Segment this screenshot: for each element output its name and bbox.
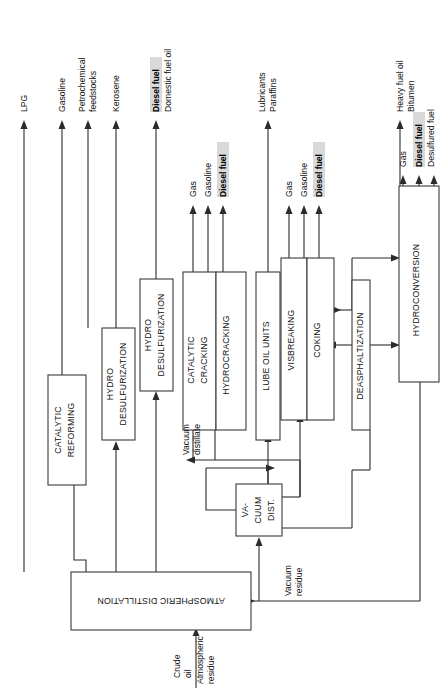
unit-catalytic-cracking[interactable]: CATALYTIC CRACKING [183,272,216,430]
product-label-cracking-gas: Gas [188,181,198,197]
diagram-canvas: ATMOSPHERIC DISTILLATION CATALYTIC REFOR… [0,0,447,692]
product-label-cracking-gasoline: Gasoline [203,163,213,197]
unit-hydro-desulfurization-2[interactable]: HYDRO DESULFURIZATION [140,279,173,391]
stream-label-atmospheric-residue-2: residue [206,656,216,684]
unit-label-coking: COKING [312,322,322,357]
unit-label-vacuum-distillation-3: DIST. [266,499,276,521]
unit-label-catalytic-reforming-1: CATALYTIC [53,406,63,453]
unit-label-catalytic-cracking-1: CATALYTIC [186,336,196,383]
unit-deasphaltization[interactable]: DEASPHALTIZATION [352,280,370,430]
unit-label-hydro-desulfurization-1a: HYDRO [105,368,115,400]
product-label-lpg: LPG [19,94,29,112]
product-label-hydroconversion-gas: Gas [398,151,408,167]
unit-label-hydro-desulfurization-1b: DESULFURIZATION [118,342,128,425]
unit-vacuum-distillation[interactable]: VA- CUUM DIST. [236,484,282,536]
unit-label-atmospheric-distillation: ATMOSPHERIC DISTILLATION [97,596,224,606]
product-label-bitumen: Bitumen [406,80,416,112]
product-label-kerosene: Kerosene [111,75,121,112]
unit-label-visbreaking: VISBREAKING [286,310,296,371]
product-label-gasoline: Gasoline [57,78,67,112]
unit-label-catalytic-reforming-2: REFORMING [66,403,76,458]
product-label-diesel-fuel-1: Diesel fuel [151,69,161,112]
stream-labels: Vacuum distillate Vacuum residue Atmosph… [172,424,304,684]
unit-label-hydroconversion: HYDROCONVERSION [411,244,421,336]
stream-label-vacuum-distillate-2: distillate [192,424,202,455]
product-label-domestic-fuel-oil: Domestic fuel oil [163,49,173,112]
product-label-hydroconversion-diesel-fuel: Diesel fuel [414,124,424,167]
unit-label-catalytic-cracking-2: CRACKING [199,336,209,383]
unit-label-hydrocracking: HYDROCRACKING [221,315,231,395]
product-label-petrochemical-feedstocks-1: Petrochemical [77,57,87,112]
process-flow-diagram: ATMOSPHERIC DISTILLATION CATALYTIC REFOR… [0,0,447,692]
feed-label-crude-1: Crude [172,654,182,678]
feed-label-crude-2: oil [183,669,193,678]
unit-hydro-desulfurization-1[interactable]: HYDRO DESULFURIZATION [102,328,135,440]
unit-lube-oil-units[interactable]: LUBE OIL UNITS [256,272,280,440]
unit-coking[interactable]: COKING [307,258,334,420]
stream-label-vacuum-residue-1: Vacuum [283,565,293,596]
unit-label-hydro-desulfurization-2b: DESULFURIZATION [156,293,166,376]
product-label-paraffins: Paraffins [268,78,278,112]
unit-label-vacuum-distillation-1: VA- [240,503,250,517]
unit-label-vacuum-distillation-2: CUUM [253,497,263,524]
product-label-desulfured-fuel: Desulfured fuel [426,109,436,167]
unit-hydrocracking[interactable]: HYDROCRACKING [216,272,246,430]
stream-label-vacuum-residue-2: residue [294,568,304,596]
product-label-lubricants: Lubricants [257,72,267,112]
product-label-visbreaking-gas: Gas [284,181,294,197]
stream-label-atmospheric-residue-1: Atmospheric [195,636,205,684]
unit-catalytic-reforming[interactable]: CATALYTIC REFORMING [48,375,86,485]
unit-hydroconversion[interactable]: HYDROCONVERSION [399,186,439,382]
unit-label-hydro-desulfurization-2a: HYDRO [143,319,153,351]
unit-label-deasphaltization: DEASPHALTIZATION [355,312,365,399]
unit-atmospheric-distillation[interactable]: ATMOSPHERIC DISTILLATION [71,572,251,630]
product-label-cracking-diesel-fuel: Diesel fuel [218,154,228,197]
unit-label-lube-oil-units: LUBE OIL UNITS [261,321,271,391]
product-label-visbreaking-diesel-fuel: Diesel fuel [314,154,324,197]
unit-visbreaking[interactable]: VISBREAKING [281,258,307,420]
product-label-petrochemical-feedstocks-2: feedstocks [88,71,98,112]
product-label-visbreaking-gasoline: Gasoline [299,163,309,197]
product-label-heavy-fuel-oil: Heavy fuel oil [395,60,405,112]
stream-label-vacuum-distillate-1: Vacuum [181,424,191,455]
product-labels: LPG Gasoline Petrochemical feedstocks Ke… [19,49,436,197]
